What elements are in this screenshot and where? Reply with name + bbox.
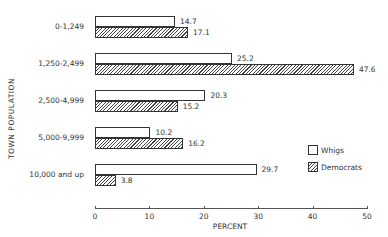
value-label: 16.2 bbox=[188, 139, 205, 148]
bar-democrats bbox=[95, 27, 188, 38]
category-label: 10,000 and up bbox=[4, 170, 84, 179]
bar-democrats bbox=[95, 64, 354, 75]
x-tick bbox=[204, 206, 205, 209]
value-label: 20.3 bbox=[210, 91, 227, 100]
legend-item-democrats: Democrats bbox=[308, 162, 362, 172]
category-label: 2,500-4,999 bbox=[4, 96, 84, 105]
bar-democrats bbox=[95, 175, 116, 186]
value-label: 47.6 bbox=[359, 65, 376, 74]
bar-whigs bbox=[95, 16, 175, 27]
legend-item-whigs: Whigs bbox=[308, 145, 344, 155]
bar-democrats bbox=[95, 138, 183, 149]
value-label: 15.2 bbox=[183, 102, 200, 111]
category-label: 5,000-9,999 bbox=[4, 133, 84, 142]
x-tick-label: 40 bbox=[303, 212, 323, 221]
legend-label-whigs: Whigs bbox=[321, 146, 344, 155]
legend-swatch-democrats bbox=[308, 162, 318, 172]
x-tick bbox=[367, 206, 368, 209]
x-tick-label: 30 bbox=[248, 212, 268, 221]
value-label: 29.7 bbox=[262, 165, 279, 174]
x-tick-label: 10 bbox=[139, 212, 159, 221]
category-label: 1,250-2,499 bbox=[4, 59, 84, 68]
bar-whigs bbox=[95, 164, 257, 175]
value-label: 3.8 bbox=[121, 176, 133, 185]
value-label: 14.7 bbox=[180, 17, 197, 26]
bar-whigs bbox=[95, 90, 205, 101]
bar-whigs bbox=[95, 127, 150, 138]
x-axis-label: PERCENT bbox=[200, 222, 260, 231]
x-tick bbox=[149, 206, 150, 209]
x-tick bbox=[313, 206, 314, 209]
value-label: 17.1 bbox=[193, 28, 210, 37]
x-tick bbox=[95, 206, 96, 209]
x-tick bbox=[258, 206, 259, 209]
legend-label-democrats: Democrats bbox=[321, 163, 362, 172]
x-axis-line bbox=[95, 208, 367, 209]
legend-swatch-whigs bbox=[308, 145, 318, 155]
bar-democrats bbox=[95, 101, 178, 112]
bar-whigs bbox=[95, 53, 232, 64]
value-label: 10.2 bbox=[155, 128, 172, 137]
value-label: 25.2 bbox=[237, 54, 254, 63]
category-label: 0-1,249 bbox=[4, 22, 84, 31]
x-tick-label: 50 bbox=[357, 212, 377, 221]
bar-chart: TOWN POPULATION 0-1,24914.717.11,250-2,4… bbox=[0, 0, 388, 237]
x-tick-label: 20 bbox=[194, 212, 214, 221]
y-axis-label: TOWN POPULATION bbox=[7, 74, 16, 164]
x-tick-label: 0 bbox=[85, 212, 105, 221]
